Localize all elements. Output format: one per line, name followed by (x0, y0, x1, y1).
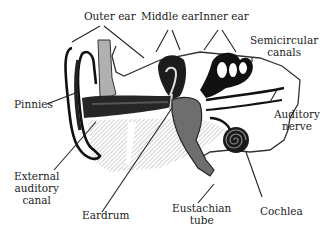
leader-inner-ear-left (204, 30, 218, 50)
semicircular-canal-2 (228, 62, 238, 78)
label-semicircular-line1: Semicircular (250, 34, 318, 46)
leader-middle-ear-left (156, 30, 168, 52)
semicircular-canal-3 (238, 61, 248, 75)
label-external-line3: canal (14, 194, 59, 206)
ear-column (98, 40, 116, 98)
leader-outer-ear-left (72, 26, 100, 42)
label-outer-ear: Outer ear (84, 10, 136, 22)
label-external-auditory-canal: External auditory canal (14, 170, 59, 206)
label-pinnies: Pinnies (14, 98, 53, 110)
label-external-line2: auditory (14, 182, 59, 194)
label-semicircular-canals: Semicircular canals (250, 34, 318, 58)
auditory-canal (82, 96, 176, 119)
semicircular-canal-1 (216, 61, 228, 79)
leader-cochlea (246, 152, 262, 197)
label-auditory-line2: nerve (274, 120, 320, 132)
label-semicircular-line2: canals (250, 46, 318, 58)
label-eustachian-line2: tube (172, 214, 231, 226)
label-eustachian-line1: Eustachian (172, 202, 231, 214)
leader-eustachian (198, 184, 214, 203)
leader-middle-ear-right (172, 30, 180, 50)
label-eardrum: Eardrum (82, 209, 129, 221)
label-auditory-line1: Auditory (274, 108, 320, 120)
ear-diagram: Outer ear Middle ear Inner ear Semicircu… (0, 0, 324, 234)
label-eustachian-tube: Eustachian tube (172, 202, 231, 226)
label-auditory-nerve: Auditory nerve (274, 108, 320, 132)
leader-inner-ear-right (222, 30, 236, 52)
label-cochlea: Cochlea (260, 205, 303, 217)
label-inner-ear: Inner ear (199, 10, 249, 22)
label-middle-ear: Middle ear (141, 10, 199, 22)
cochlea-shell (223, 127, 249, 153)
label-external-line1: External (14, 170, 59, 182)
